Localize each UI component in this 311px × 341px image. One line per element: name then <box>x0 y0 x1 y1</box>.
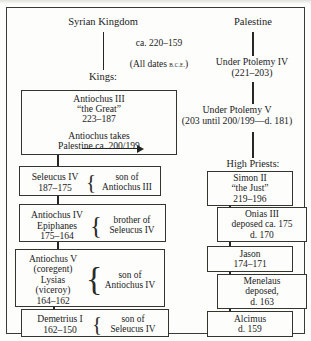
all-dates-post: ) <box>185 59 188 69</box>
right-column-heading: Palestine <box>205 16 301 27</box>
box-antiochus-iv-title: Antiochus IV Epiphanes 175–164 <box>24 210 90 242</box>
box-seleucus-iv-relation: son of Antiochus III <box>94 172 160 192</box>
box-onias-iii[interactable]: Onias III deposed ca. 175 d. 170 <box>217 207 307 242</box>
diagram-frame: Syrian Kingdom Kings: ca. 220–159 (All d… <box>6 7 305 334</box>
box-antiochus-v-lysias[interactable]: Antiochus V (coregent) Lysias (viceroy) … <box>15 249 165 307</box>
box-antiochus-iii-title: Antiochus III “the Great” 223–187 <box>73 94 124 124</box>
connector-ptolemy-iv-to-v <box>252 82 254 104</box>
box-antiochus-iv-epiphanes[interactable]: Antiochus IV Epiphanes 175–164 { brother… <box>19 204 166 242</box>
box-alcimus[interactable]: Alcimus d. 159 <box>207 311 293 337</box>
date-range-line: ca. 220–159 <box>103 38 215 48</box>
box-demetrius-i-title: Demetrius I 162–150 <box>28 314 92 335</box>
connector-palestine-to-ptolemy-iv <box>252 32 254 56</box>
box-jason[interactable]: Jason 174–171 <box>207 246 293 272</box>
box-seleucus-iv[interactable]: Seleucus IV 187–175 { son of Antiochus I… <box>19 166 161 196</box>
box-demetrius-i-relation: son of Seleucus IV <box>100 314 166 334</box>
left-column-heading: Syrian Kingdom <box>43 16 163 27</box>
scan-edge-artifact <box>0 0 311 4</box>
box-antiochus-iv-relation: brother of Seleucus IV <box>100 215 164 235</box>
box-antiochus-v-title: Antiochus V (coregent) Lysias (viceroy) … <box>20 254 86 306</box>
under-ptolemy-iv-label: Under Ptolemy IV (221–203) <box>193 57 311 78</box>
connector-ptolemy-v-to-priests <box>252 132 254 158</box>
under-ptolemy-v-label: Under Ptolemy V (203 until 200/199—d. 18… <box>157 105 311 126</box>
all-dates-pre: (All dates <box>130 59 170 69</box>
box-simon-ii[interactable]: Simon II “the Just” 219–196 <box>207 171 293 206</box>
bce-small-caps: B.C.E. <box>169 62 185 68</box>
box-antiochus-v-relation: son of Antiochus IV <box>98 270 162 290</box>
right-column-subheading: High Priests: <box>207 158 299 169</box>
conquest-arrow-icon <box>82 145 144 153</box>
box-seleucus-iv-title: Seleucus IV 187–175 <box>24 172 86 193</box>
box-antiochus-iii[interactable]: Antiochus III “the Great” 223–187 Antioc… <box>21 90 177 155</box>
box-demetrius-i[interactable]: Demetrius I 162–150 { son of Seleucus IV <box>21 309 169 337</box>
box-menelaus[interactable]: Menelaus deposed, d. 163 <box>217 274 307 309</box>
